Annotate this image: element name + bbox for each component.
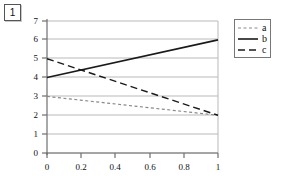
line-chart: 7 6 5 4 3 2 1 0 0 0.2 0.4 0.6 0.8 1 a <box>0 0 285 188</box>
legend-swatch-c <box>237 44 259 55</box>
series-line-c <box>47 59 218 116</box>
x-tick-label: 0.6 <box>144 162 156 172</box>
legend-swatch-b <box>237 33 259 44</box>
chart-legend: a b c <box>234 19 271 58</box>
legend-label-a: a <box>259 22 266 33</box>
y-tick-label: 1 <box>34 129 39 139</box>
legend-item-a[interactable]: a <box>237 22 267 33</box>
legend-item-c[interactable]: c <box>237 44 267 55</box>
legend-item-b[interactable]: b <box>237 33 267 44</box>
x-tick-label: 0 <box>45 162 50 172</box>
y-tick-label: 4 <box>34 72 39 82</box>
y-tick-label: 0 <box>34 148 39 158</box>
series-line-a <box>47 96 218 115</box>
legend-label-c: c <box>259 44 266 55</box>
y-tick-label: 7 <box>34 16 39 26</box>
legend-swatch-a <box>237 22 259 33</box>
x-tick-label: 0.4 <box>109 162 121 172</box>
x-tick-label: 1 <box>216 162 221 172</box>
x-axis-ticks <box>47 153 218 158</box>
y-tick-label: 2 <box>34 110 39 120</box>
series-line-b <box>47 40 218 78</box>
x-tick-label: 0.8 <box>178 162 190 172</box>
x-axis-tick-labels: 0 0.2 0.4 0.6 0.8 1 <box>45 162 221 172</box>
y-tick-label: 6 <box>34 34 39 44</box>
y-tick-label: 5 <box>34 53 39 63</box>
x-tick-label: 0.2 <box>75 162 86 172</box>
y-axis-tick-labels: 7 6 5 4 3 2 1 0 <box>34 16 39 158</box>
y-axis-ticks <box>42 21 47 153</box>
legend-label-b: b <box>259 33 267 44</box>
y-tick-label: 3 <box>34 91 39 101</box>
